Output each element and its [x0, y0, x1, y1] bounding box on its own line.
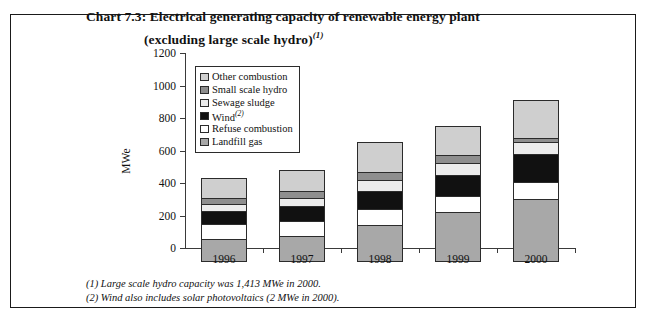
bar-segment	[435, 126, 481, 155]
legend-item-other: Other combustion	[200, 70, 293, 83]
legend-label: Refuse combustion	[212, 122, 293, 135]
legend-rows: Other combustionSmall scale hydroSewage …	[200, 70, 293, 148]
x-axis-label: 1996	[213, 253, 236, 265]
x-axis-label: 1999	[447, 253, 470, 265]
legend-item-smallhydro: Small scale hydro	[200, 83, 293, 96]
y-axis-label: 200	[132, 210, 176, 222]
bar-2000	[513, 100, 559, 262]
bar-segment	[435, 196, 481, 213]
footnotes: (1) Large scale hydro capacity was 1,413…	[86, 277, 339, 304]
chart-legend: Other combustionSmall scale hydroSewage …	[195, 66, 300, 153]
y-axis-tick	[180, 183, 185, 184]
y-axis-tick	[180, 118, 185, 119]
y-axis-tick	[180, 86, 185, 87]
legend-item-wind: Wind(2)	[200, 109, 293, 122]
bar-segment	[201, 211, 247, 225]
x-axis-label: 2000	[525, 253, 548, 265]
bar-segment	[279, 170, 325, 192]
y-axis-label: 1200	[132, 47, 176, 59]
bar-segment	[357, 209, 403, 226]
bar-segment	[513, 154, 559, 183]
legend-label: Landfill gas	[212, 135, 262, 148]
chart-title: Chart 7.3: Electrical generating capacit…	[86, 8, 606, 49]
y-axis-title: MWe	[120, 148, 132, 173]
footnote-marker-1: (1)	[313, 30, 324, 40]
footnote-marker-2: (2)	[235, 109, 244, 118]
chart-title-line2: (excluding large scale hydro)(1)	[86, 26, 606, 49]
bar-segment	[357, 142, 403, 173]
y-axis-tick	[180, 151, 185, 152]
legend-swatch-icon	[200, 112, 209, 120]
bar-1996	[201, 178, 247, 262]
y-axis-label: 600	[132, 145, 176, 157]
y-axis-line	[185, 53, 186, 248]
x-axis-label: 1998	[369, 253, 392, 265]
bar-segment	[201, 224, 247, 240]
x-axis-tick	[341, 248, 342, 253]
y-axis-label: 800	[132, 112, 176, 124]
legend-swatch-icon	[200, 99, 209, 107]
legend-label: Small scale hydro	[212, 83, 287, 96]
y-axis-tick	[180, 216, 185, 217]
legend-swatch-icon	[200, 138, 209, 146]
footnote-1: (1) Large scale hydro capacity was 1,413…	[86, 277, 339, 291]
chart-page: Chart 7.3: Electrical generating capacit…	[0, 0, 646, 319]
legend-swatch-icon	[200, 125, 209, 133]
bar-segment	[279, 221, 325, 237]
y-axis-label: 0	[132, 242, 176, 254]
legend-label: Other combustion	[212, 70, 288, 83]
x-axis-tick	[497, 248, 498, 253]
bar-segment	[513, 182, 559, 200]
y-axis-label: 1000	[132, 80, 176, 92]
y-axis-tick	[180, 248, 185, 249]
bar-1999	[435, 126, 481, 262]
bar-segment	[201, 178, 247, 198]
footnote-2: (2) Wind also includes solar photovoltai…	[86, 291, 339, 305]
legend-item-refuse: Refuse combustion	[200, 122, 293, 135]
bar-segment	[513, 100, 559, 139]
bar-segment	[435, 175, 481, 198]
bar-1998	[357, 142, 403, 262]
bar-1997	[279, 170, 325, 262]
chart-title-line1: Chart 7.3: Electrical generating capacit…	[86, 9, 480, 24]
x-axis-tick	[263, 248, 264, 253]
legend-item-landfill: Landfill gas	[200, 135, 293, 148]
bar-segment	[357, 191, 403, 210]
x-axis-label: 1997	[291, 253, 314, 265]
y-axis-tick	[180, 53, 185, 54]
legend-swatch-icon	[200, 86, 209, 94]
bar-segment	[279, 206, 325, 221]
x-axis-tick	[419, 248, 420, 253]
x-axis-tick	[575, 248, 576, 253]
y-axis-label: 400	[132, 177, 176, 189]
legend-swatch-icon	[200, 73, 209, 81]
